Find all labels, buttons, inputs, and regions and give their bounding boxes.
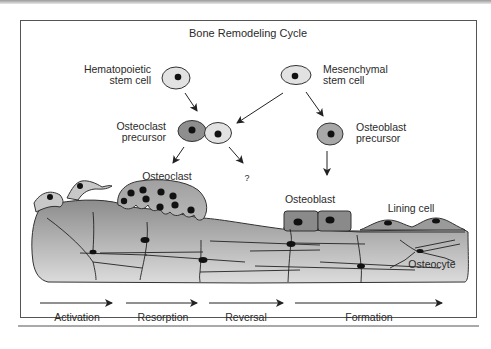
osteoblast-precursor-label-2: precursor: [356, 132, 401, 144]
arrow-to-unknown: [229, 147, 243, 163]
phase-label-resorption: Resorption: [138, 311, 189, 323]
mesenchymal-stem-cell: [281, 66, 311, 85]
osteoblast-cells: [284, 211, 351, 231]
lining-cell-label: Lining cell: [388, 202, 435, 214]
arrow-msc-to-precursor: [237, 93, 283, 123]
phase-label-formation: Formation: [345, 311, 392, 323]
lining-cells: [360, 218, 465, 230]
unknown-fate-label: ?: [244, 173, 249, 183]
arrow-to-osteoclast: [173, 147, 184, 163]
figure-title: Bone Remodeling Cycle: [189, 27, 307, 39]
hematopoietic-label-2: stem cell: [110, 74, 151, 86]
osteoclast-precursor-cells: [178, 121, 232, 144]
osteoblast-precursor-cell: [317, 123, 343, 145]
osteoblast-label: Osteoblast: [285, 193, 335, 205]
arrow-hsc-to-precursor: [185, 93, 197, 111]
bone-remodeling-diagram: Bone Remodeling Cycle Hematopoietic stem…: [0, 0, 491, 349]
mesenchymal-label-2: stem cell: [323, 74, 364, 86]
osteoclast-precursor-label-2: precursor: [122, 131, 167, 143]
hematopoietic-stem-cell: [162, 67, 190, 89]
phase-label-reversal: Reversal: [225, 311, 266, 323]
phase-label-activation: Activation: [54, 311, 100, 323]
osteocyte-label: Osteocyte: [408, 258, 455, 270]
arrow-msc-to-osteoblast-precursor: [306, 92, 323, 116]
